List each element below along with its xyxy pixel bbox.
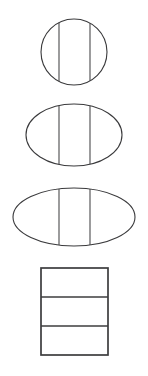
ellipse-medium-outline	[26, 104, 122, 166]
figure-ellipse-medium	[26, 104, 122, 166]
figure-ellipse-wide	[13, 188, 135, 246]
rectangle-outline	[41, 268, 108, 355]
figure-circle	[41, 19, 107, 85]
figure-rectangle	[41, 268, 108, 355]
geometry-diagram	[0, 0, 148, 376]
ellipse-wide-outline	[13, 188, 135, 246]
circle-outline	[41, 19, 107, 85]
